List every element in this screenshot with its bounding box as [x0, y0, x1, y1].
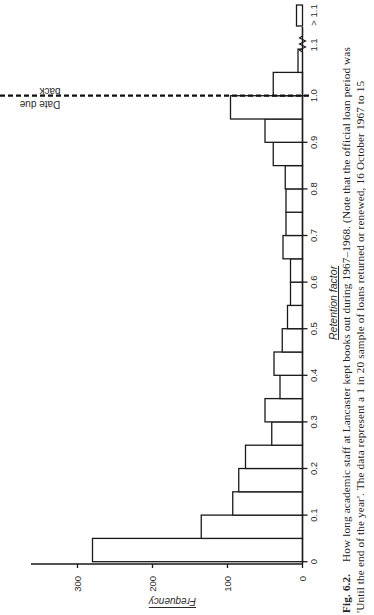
histogram-bar	[246, 445, 303, 468]
retention-tick-label: 0.4	[308, 369, 319, 382]
histogram-bar	[265, 399, 303, 422]
caption-text-1: How long academic staff at Lancaster kep…	[340, 47, 352, 562]
date-due-label-date-due: Date due	[19, 99, 60, 110]
date-due-label-back: back	[38, 86, 60, 97]
y-axis-title: Frequency	[149, 596, 196, 607]
histogram-bar	[286, 212, 303, 235]
retention-tick-label: 0.9	[308, 136, 319, 149]
frequency-tick-label: 100	[222, 576, 233, 592]
retention-tick-label: 0.2	[308, 462, 319, 475]
histogram-bar	[265, 119, 303, 142]
histogram-bar	[288, 305, 303, 328]
retention-tick-label: > 1.1	[308, 4, 319, 25]
histogram-bar	[274, 352, 303, 375]
histogram-bar	[201, 515, 302, 538]
histogram-bar	[273, 72, 302, 95]
histogram-bar	[298, 49, 303, 72]
figure-caption-line-1: Fig. 6.2. How long academic staff at Lan…	[340, 47, 352, 613]
retention-tick-label: 1.0	[308, 89, 319, 102]
histogram-bar	[239, 469, 303, 492]
histogram-bar	[233, 492, 303, 515]
histogram-bar	[280, 375, 303, 398]
retention-tick-label: 0.1	[308, 508, 319, 521]
frequency-tick-label: 200	[147, 576, 158, 592]
retention-tick-label: 1.1	[308, 38, 319, 51]
histogram-bar	[283, 236, 303, 259]
retention-tick-label: 0.3	[308, 415, 319, 428]
retention-tick-label: 0.7	[308, 229, 319, 242]
histogram-bar	[93, 538, 303, 561]
histogram-bar	[286, 189, 303, 212]
histogram-bars	[93, 5, 303, 562]
frequency-tick-label: 300	[72, 576, 83, 592]
histogram-bar	[273, 142, 302, 165]
histogram-bar	[297, 5, 303, 26]
histogram-bar	[291, 282, 303, 305]
figure-caption-line-2: 'Until the end of the year'. The data re…	[354, 81, 366, 613]
retention-tick-label: 0.5	[308, 322, 319, 335]
retention-tick-label: 0.8	[308, 182, 319, 195]
retention-tick-label: 0.6	[308, 275, 319, 288]
histogram-bar	[291, 259, 303, 282]
retention-tick-label: 0	[308, 559, 319, 564]
histogram-bar	[272, 422, 303, 445]
figure-number: Fig. 6.2.	[340, 574, 352, 613]
caption-text-2: 'Until the end of the year'. The data re…	[354, 81, 366, 613]
frequency-tick-label: 0	[297, 576, 308, 581]
histogram-chart: 010020030000.10.20.30.40.50.60.70.80.91.…	[0, 0, 374, 615]
histogram-bar	[282, 329, 302, 352]
histogram-bar	[231, 96, 303, 119]
histogram-bar	[285, 166, 302, 189]
x-axis-title: Retention factor	[327, 266, 339, 340]
